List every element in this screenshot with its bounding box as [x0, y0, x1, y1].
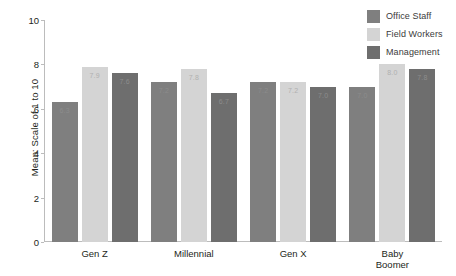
bar[interactable]: 7.9	[82, 67, 108, 242]
bar-value-label: 6.7	[211, 98, 237, 105]
bar[interactable]: 6.7	[211, 93, 237, 242]
bar-groups: 6.37.97.6Gen Z7.27.86.7Millennial7.27.27…	[45, 20, 442, 242]
bar-group: 7.27.86.7Millennial	[144, 20, 243, 242]
x-tick-label: Baby Boomer	[343, 248, 442, 270]
bar-value-label: 7.2	[280, 87, 306, 94]
bar[interactable]: 7.2	[280, 82, 306, 242]
x-tick-label: Gen Z	[45, 248, 144, 259]
bar[interactable]: 7.0	[349, 87, 375, 242]
bar[interactable]: 7.8	[181, 69, 207, 242]
bar-value-label: 7.2	[151, 87, 177, 94]
bar[interactable]: 7.6	[112, 73, 138, 242]
bar-value-label: 7.0	[349, 92, 375, 99]
y-tick-label: 6	[34, 103, 39, 114]
bar[interactable]: 7.8	[409, 69, 435, 242]
x-tick-label: Gen X	[244, 248, 343, 259]
bar-group: 7.08.07.8Baby Boomer	[343, 20, 442, 242]
bar[interactable]: 6.3	[52, 102, 78, 242]
bar-group: 7.27.27.0Gen X	[244, 20, 343, 242]
bar-value-label: 7.6	[112, 78, 138, 85]
y-tick-label: 8	[34, 59, 39, 70]
y-tick-label: 2	[34, 192, 39, 203]
y-tick-label: 0	[34, 237, 39, 248]
bar[interactable]: 8.0	[379, 64, 405, 242]
bar-value-label: 7.8	[409, 74, 435, 81]
bar-value-label: 6.3	[52, 107, 78, 114]
bar-value-label: 7.9	[82, 72, 108, 79]
y-tick-label: 10	[28, 15, 39, 26]
plot-area: 0 2 4 6 8 10 6.37.97.6Gen Z7.27.86.7Mill…	[44, 20, 442, 242]
bar-group: 6.37.97.6Gen Z	[45, 20, 144, 242]
bar-value-label: 7.2	[250, 87, 276, 94]
bar[interactable]: 7.0	[310, 87, 336, 242]
bar-value-label: 8.0	[379, 69, 405, 76]
x-tick-label: Millennial	[144, 248, 243, 259]
bar-chart: Office Staff Field Workers Management Me…	[0, 0, 456, 276]
y-tick-label: 4	[34, 148, 39, 159]
bar[interactable]: 7.2	[151, 82, 177, 242]
bar-value-label: 7.8	[181, 74, 207, 81]
bar[interactable]: 7.2	[250, 82, 276, 242]
bar-value-label: 7.0	[310, 92, 336, 99]
